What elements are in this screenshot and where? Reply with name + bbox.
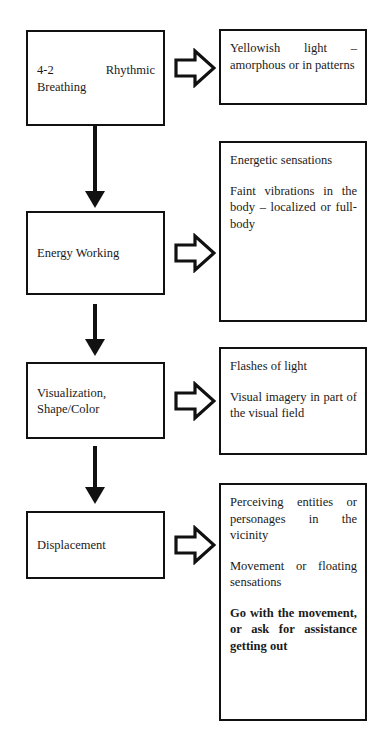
effect-text: Yellowish light – amorphous or in patter… [230,40,357,73]
effect-text: Flashes of light [230,358,357,375]
stage-label-rhythmic-breathing: 4-2 Rhythmic Breathing [28,62,163,95]
stage-box-displacement[interactable]: Displacement [26,511,165,579]
stage-label-displacement: Displacement [28,537,163,554]
stage-box-rhythmic-breathing[interactable]: 4-2 Rhythmic Breathing [26,30,165,126]
effect-list-visualization-shape-color: Flashes of light Visual imagery in part … [221,358,365,422]
effect-text: Faint vibrations in the body – localized… [230,183,357,233]
effect-text: Energetic sensations [230,152,357,169]
effect-list-rhythmic-breathing: Yellowish light – amorphous or in patter… [221,40,365,73]
effect-list-displacement: Perceiving entities or personages in the… [221,494,365,654]
stage-label-energy-working: Energy Working [28,245,163,262]
effect-box-energy-working[interactable]: Energetic sensations Faint vibrations in… [219,141,367,322]
flowchart-canvas: 4-2 Rhythmic Breathing Yellowish light –… [0,0,388,738]
block-arrow-right-icon-2 [174,233,216,273]
effect-text: Perceiving entities or personages in the… [230,494,357,544]
effect-text: Movement or floating sensations [230,558,357,591]
block-arrow-right-icon-3 [174,381,216,421]
arrow-down-icon-1 [82,126,108,208]
effect-box-rhythmic-breathing[interactable]: Yellowish light – amorphous or in patter… [219,29,367,105]
effect-box-visualization-shape-color[interactable]: Flashes of light Visual imagery in part … [219,347,367,455]
stage-box-energy-working[interactable]: Energy Working [26,211,165,295]
block-arrow-right-icon-4 [174,525,216,565]
effect-box-displacement[interactable]: Perceiving entities or personages in the… [219,483,367,721]
effect-text-emphasis: Go with the movement, or ask for assista… [230,605,357,655]
arrow-down-icon-2 [82,304,108,356]
block-arrow-right-icon-1 [174,48,216,88]
stage-label-visualization-shape-color: Visualization, Shape/Color [28,384,163,417]
stage-box-visualization-shape-color[interactable]: Visualization, Shape/Color [26,362,165,439]
arrow-down-icon-3 [82,446,108,504]
effect-text: Visual imagery in part of the visual fie… [230,389,357,422]
effect-list-energy-working: Energetic sensations Faint vibrations in… [221,152,365,232]
